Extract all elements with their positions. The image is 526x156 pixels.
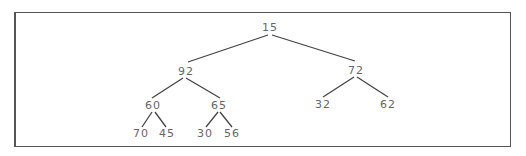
node-right-right: 62 [380,98,396,111]
node-leaf: 70 [133,127,149,140]
tree-edge [357,77,388,97]
tree-edge [142,112,152,127]
tree-edge [206,112,218,127]
tree-edges [142,35,388,127]
node-leaf: 56 [224,127,240,140]
node-leaf: 45 [159,127,175,140]
node-leaf: 30 [197,127,213,140]
tree-edge [220,112,232,127]
node-left-child: 92 [178,65,194,78]
tree-edge [188,35,268,62]
node-root: 15 [262,21,278,34]
tree-edge [155,112,166,127]
tree-nodes: 15 92 72 60 65 32 62 70 45 30 56 [133,21,396,140]
node-left-right: 65 [211,99,227,112]
tree-edge [186,78,220,98]
tree-edge [152,78,183,98]
node-right-child: 72 [348,64,364,77]
tree-edge [323,77,354,97]
node-right-left: 32 [315,98,331,111]
tree-edge [272,35,355,61]
binary-tree-diagram: 15 92 72 60 65 32 62 70 45 30 56 [0,0,526,156]
node-left-left: 60 [145,99,161,112]
